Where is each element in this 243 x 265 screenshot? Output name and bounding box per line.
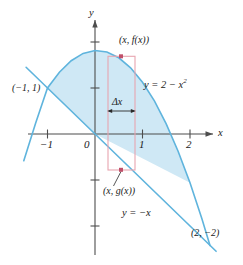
upper-point-marker (119, 54, 123, 58)
right-intersection-label: (2, −2) (191, 228, 219, 238)
x-axis-arrow (206, 131, 214, 136)
shaded-region (48, 51, 191, 183)
area-between-curves-figure: x y −1 0 1 2 (x, f(x)) (x, g(x)) y = 2 −… (0, 0, 243, 265)
lower-point-leader-line (114, 172, 122, 187)
parabola-equation-exponent: 2 (183, 77, 187, 85)
x-axis-label: x (218, 128, 223, 139)
x-tick-label-2: 2 (186, 139, 192, 150)
upper-point-label: (x, f(x)) (119, 35, 149, 45)
x-tick-label-1: 1 (139, 139, 145, 150)
delta-x-label: Δx (112, 97, 122, 107)
lower-point-label: (x, g(x)) (103, 186, 135, 196)
y-axis-label: y (89, 8, 94, 19)
y-axis-arrow (92, 20, 97, 28)
parabola-equation-label: y = 2 − x2 (144, 78, 187, 90)
x-tick-label--1: −1 (40, 139, 53, 150)
left-intersection-label: (−1, 1) (12, 83, 40, 93)
line-equation-label: y = −x (122, 208, 151, 219)
lower-point-marker (119, 168, 123, 172)
parabola-equation-text: y = 2 − x (144, 79, 183, 90)
x-tick-label-0: 0 (84, 139, 90, 150)
